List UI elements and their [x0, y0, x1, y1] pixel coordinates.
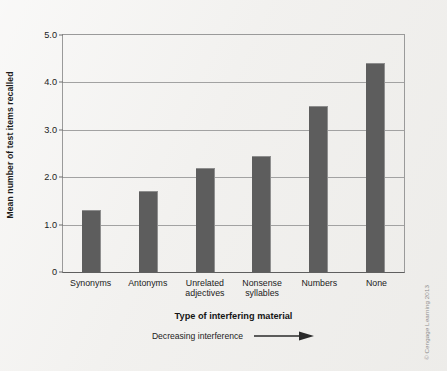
- plot-area: 01.02.03.04.05.0: [62, 34, 405, 273]
- x-tick-label: Synonyms: [62, 278, 119, 308]
- y-tick-label: 2.0: [44, 172, 63, 182]
- x-tick-label: Unrelatedadjectives: [176, 278, 233, 308]
- y-tick-label: 3.0: [44, 125, 63, 135]
- bar-slot: [177, 35, 234, 272]
- x-tick-label: Antonyms: [119, 278, 176, 308]
- y-axis-title: Mean number of test items recalled: [2, 30, 18, 260]
- x-tick-label: Nonsensesyllables: [234, 278, 291, 308]
- x-tick-label: None: [348, 278, 405, 308]
- y-tick-label: 5.0: [44, 30, 63, 40]
- y-tick-label: 0: [52, 267, 63, 277]
- bar: [366, 63, 385, 272]
- x-axis-title: Type of interfering material: [62, 311, 405, 321]
- y-tick-label: 1.0: [44, 220, 63, 230]
- y-tick-label: 4.0: [44, 77, 63, 87]
- bar: [139, 191, 158, 272]
- bar: [196, 168, 215, 272]
- bar: [252, 156, 271, 272]
- y-axis-title-text: Mean number of test items recalled: [5, 71, 15, 218]
- x-tick-label: Numbers: [291, 278, 348, 308]
- rightwards-arrow-icon: [253, 330, 315, 342]
- bar-slot: [290, 35, 347, 272]
- bar: [309, 106, 328, 272]
- bar-series: [63, 35, 404, 272]
- x-axis-tick-labels: SynonymsAntonymsUnrelatedadjectivesNonse…: [62, 278, 405, 308]
- copyright-credit: © Cengage Learning 2013: [419, 278, 433, 366]
- bar-slot: [63, 35, 120, 272]
- bar-chart-figure: Mean number of test items recalled 01.02…: [0, 0, 447, 371]
- interference-annotation: Decreasing interference: [62, 330, 405, 342]
- bar-slot: [120, 35, 177, 272]
- bar-slot: [233, 35, 290, 272]
- bar: [82, 210, 101, 272]
- copyright-credit-text: © Cengage Learning 2013: [423, 285, 430, 360]
- annotation-label: Decreasing interference: [152, 331, 243, 341]
- bar-slot: [347, 35, 404, 272]
